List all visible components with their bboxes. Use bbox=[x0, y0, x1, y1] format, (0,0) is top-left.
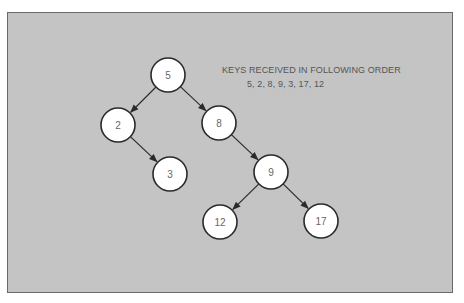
tree-node-17: 17 bbox=[304, 204, 338, 238]
caption-sequence: 5, 2, 8, 9, 3, 17, 12 bbox=[247, 79, 324, 89]
edge-n8-n9 bbox=[231, 135, 258, 160]
binary-search-tree: 528391217 bbox=[0, 0, 464, 303]
svg-text:17: 17 bbox=[315, 216, 327, 227]
svg-text:12: 12 bbox=[214, 217, 226, 228]
svg-text:3: 3 bbox=[167, 169, 173, 180]
svg-text:5: 5 bbox=[165, 70, 171, 81]
edge-n9-n12 bbox=[233, 184, 259, 209]
edge-n5-n8 bbox=[180, 87, 206, 111]
svg-text:2: 2 bbox=[115, 120, 121, 131]
tree-edges bbox=[130, 87, 308, 210]
edge-n9-n17 bbox=[283, 184, 308, 209]
edge-n5-n2 bbox=[131, 87, 156, 112]
edge-n2-n3 bbox=[130, 137, 157, 162]
caption-title: KEYS RECEIVED IN FOLLOWING ORDER bbox=[222, 65, 401, 75]
tree-node-5: 5 bbox=[151, 58, 185, 92]
tree-node-2: 2 bbox=[101, 108, 135, 142]
svg-text:8: 8 bbox=[216, 118, 222, 129]
svg-text:9: 9 bbox=[268, 167, 274, 178]
tree-node-8: 8 bbox=[202, 106, 236, 140]
tree-node-9: 9 bbox=[254, 155, 288, 189]
tree-node-12: 12 bbox=[203, 205, 237, 239]
tree-node-3: 3 bbox=[153, 157, 187, 191]
